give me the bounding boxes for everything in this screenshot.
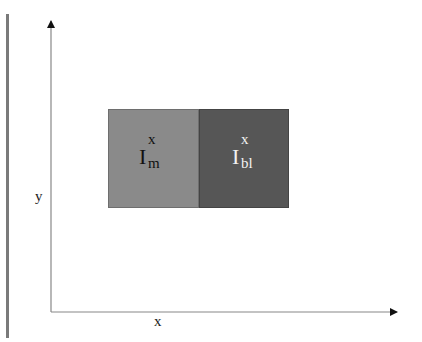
- label-subscript: m: [148, 156, 160, 171]
- x-axis-label: x: [154, 313, 162, 330]
- label-superscript: x: [148, 132, 156, 147]
- y-axis-label: y: [35, 188, 43, 205]
- label-subscript: bl: [241, 156, 253, 171]
- label-base: I: [139, 144, 146, 169]
- label-base: I: [232, 144, 239, 169]
- label-i-bl: I x bl: [232, 146, 239, 168]
- label-superscript: x: [241, 132, 249, 147]
- label-i-m: I x m: [139, 146, 146, 168]
